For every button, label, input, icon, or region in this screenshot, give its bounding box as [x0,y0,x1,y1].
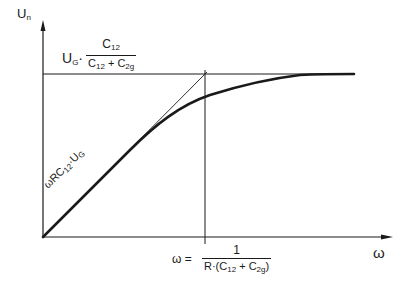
y-axis-label-sub: n [26,13,30,22]
y-axis-label-text: U [17,6,26,21]
corner-fraction-bar [202,258,271,259]
asymptote-num-text: C [102,37,111,51]
asymptote-fraction-bar [86,55,136,56]
response-curve [43,74,354,237]
asymptote-prefix-text: U [62,50,72,66]
y-axis-arrow [41,20,46,31]
corner-den-mid: + C [236,260,256,272]
asymptote-denominator: C12 + C2g [86,57,136,73]
corner-denominator: R·(C12 + C2g) [202,260,271,276]
asymptote-label-prefix: UG· [62,50,83,67]
asymptote-den-a-sub: 12 [96,62,105,71]
asymptote-den-a: C [88,57,96,69]
x-axis-label-text: ω [373,244,385,261]
x-axis-label: ω [373,244,385,261]
asymptote-fraction: C12 C12 + C2g [86,38,136,73]
corner-frequency-lhs: ω = [172,252,192,266]
corner-frequency-fraction: 1 R·(C12 + C2g) [202,244,271,276]
corner-den-suffix: ) [266,260,270,272]
asymptote-den-b-sub: 2g [125,62,134,71]
corner-den-sub1: 12 [227,265,236,274]
corner-lhs-text: ω = [172,252,192,266]
asymptote-dot: · [78,50,83,66]
asymptote-num-sub: 12 [111,43,120,52]
asymptote-den-plus: + [105,57,118,69]
corner-numerator: 1 [229,244,244,257]
corner-den-prefix: R·(C [204,260,227,272]
x-axis-arrow [381,235,393,240]
y-axis-label: Un [17,6,31,22]
corner-den-sub2: 2g [257,265,266,274]
corner-num-text: 1 [233,243,240,257]
asymptote-numerator: C12 [98,38,124,54]
